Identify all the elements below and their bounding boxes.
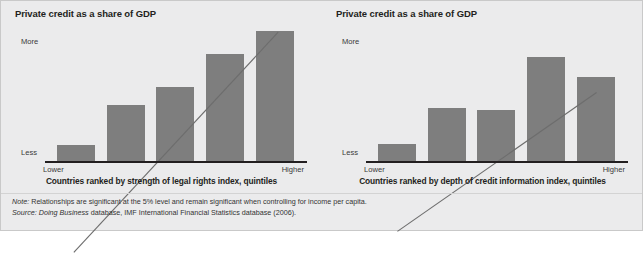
bar (57, 145, 95, 161)
chart-panel-legal-rights: Private credit as a share of GDP More Le… (1, 1, 322, 193)
bar-group-right (366, 27, 628, 161)
chart-panels: Private credit as a share of GDP More Le… (1, 1, 643, 193)
y-axis-label-more: More (342, 37, 359, 46)
plot-area-left: More Less (15, 27, 307, 163)
x-axis-title: Countries ranked by strength of legal ri… (1, 176, 322, 186)
panel-title: Private credit as a share of GDP (336, 8, 477, 19)
chart-panel-credit-information: Private credit as a share of GDP More Le… (322, 1, 643, 193)
x-tick-lower: Lower (364, 165, 385, 174)
source-line: Source: Doing Business database, IMF Int… (12, 208, 642, 219)
bar (378, 144, 416, 161)
panel-title: Private credit as a share of GDP (15, 8, 156, 19)
y-axis-label-less: Less (21, 148, 37, 157)
x-axis-line (366, 161, 628, 163)
figure-footer: Note: Relationships are significant at t… (1, 193, 642, 230)
bar (527, 57, 565, 162)
x-tick-lower: Lower (43, 165, 64, 174)
bar (206, 54, 244, 162)
source-text: database, IMF International Financial St… (89, 208, 296, 217)
bar (577, 77, 615, 162)
plot-area-right: More Less (336, 27, 628, 163)
y-axis-label-more: More (21, 37, 38, 46)
note-text: Relationships are significant at the 5% … (29, 197, 367, 206)
x-tick-higher: Higher (603, 165, 625, 174)
bar-group-left (45, 27, 307, 161)
bar (256, 31, 294, 161)
y-axis-label-less: Less (342, 148, 358, 157)
bar (156, 87, 194, 161)
note-line: Note: Relationships are significant at t… (12, 197, 642, 208)
bar (428, 108, 466, 162)
x-tick-higher: Higher (282, 165, 304, 174)
x-axis-line (45, 161, 307, 163)
note-label: Note: (12, 197, 29, 206)
source-publication-title: Doing Business (37, 208, 89, 217)
bar (107, 105, 145, 161)
bar (477, 110, 515, 161)
source-label: Source: (12, 208, 37, 217)
x-axis-title: Countries ranked by depth of credit info… (322, 176, 643, 186)
